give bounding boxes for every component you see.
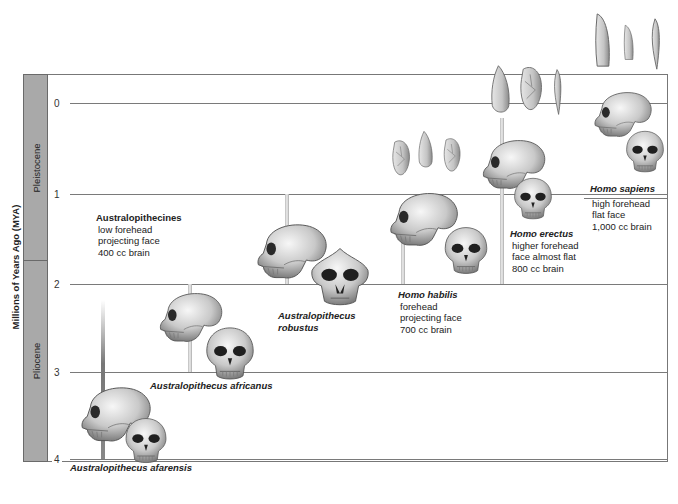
gridline-1 <box>70 194 668 195</box>
group-name: Australopithecines <box>96 212 182 224</box>
label-erectus: Homo erectus higher forehead face almost… <box>510 228 579 274</box>
species-name: Homo sapiens <box>590 183 655 195</box>
skull-front-erectus-icon <box>510 176 556 222</box>
label-africanus: Australopithecus africanus <box>150 380 272 392</box>
tick-2: 2 <box>52 279 62 290</box>
trait: 700 cc brain <box>398 324 462 336</box>
trait: projecting face <box>96 235 182 247</box>
trait: forehead <box>398 301 462 313</box>
y-axis-title: Millions of Years Ago (MYA) <box>10 192 24 342</box>
trait: flat face <box>590 209 655 221</box>
species-name: Homo habilis <box>398 289 462 301</box>
trait: higher forehead <box>510 240 579 252</box>
point-tool-icon <box>646 12 664 76</box>
trait: 800 cc brain <box>510 263 579 275</box>
gridline-0 <box>70 103 668 104</box>
epoch-pliocene: Pliocene <box>23 260 48 462</box>
trait: 400 cc brain <box>96 247 182 259</box>
label-habilis: Homo habilis forehead projecting face 70… <box>398 289 462 335</box>
skull-front-sapiens-icon <box>622 126 668 178</box>
species-name: Homo erectus <box>510 228 579 240</box>
species-name: Australopithecus <box>278 310 356 322</box>
blade-tool-icon <box>618 24 640 62</box>
skull-front-africanus-icon <box>200 325 260 383</box>
species-name: Australopithecus afarensis <box>70 462 192 474</box>
species-name-line2: robustus <box>278 322 356 334</box>
label-robustus: Australopithecus robustus <box>278 310 356 333</box>
point-tool-icon <box>549 64 565 120</box>
skull-front-afarensis-icon <box>120 416 172 466</box>
epoch-pleistocene: Pleistocene <box>23 74 48 261</box>
skull-front-robustus-icon <box>306 247 374 309</box>
stone-tool-icon <box>413 130 439 170</box>
tick-3: 3 <box>52 367 62 378</box>
skull-front-habilis-icon <box>440 225 492 277</box>
tick-0: 0 <box>52 98 62 109</box>
epoch-label: Pleistocene <box>30 143 41 192</box>
trait: face almost flat <box>510 251 579 263</box>
trait: low forehead <box>96 224 182 236</box>
tick-4: 4 <box>52 454 62 465</box>
tick-1: 1 <box>52 189 62 200</box>
label-afarensis: Australopithecus afarensis <box>70 462 192 474</box>
gridline-3 <box>70 372 668 373</box>
hand-axe-icon <box>488 62 514 118</box>
epoch-label: Pliocene <box>30 343 41 379</box>
trait: projecting face <box>398 312 462 324</box>
trait: high forehead <box>590 198 655 210</box>
species-name: Australopithecus africanus <box>150 380 272 392</box>
stone-tool-icon <box>388 138 414 180</box>
label-australopithecines: Australopithecines low forehead projecti… <box>96 212 182 258</box>
hand-axe-icon <box>516 64 546 116</box>
label-sapiens: Homo sapiens high forehead flat face 1,0… <box>590 183 655 232</box>
stone-tool-icon <box>440 136 464 176</box>
blade-tool-icon <box>592 12 614 70</box>
trait: 1,000 cc brain <box>590 221 655 233</box>
